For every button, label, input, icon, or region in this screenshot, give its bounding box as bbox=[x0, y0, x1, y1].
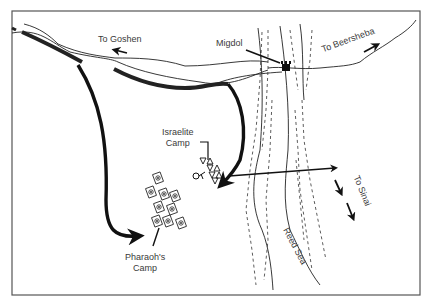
label-israelite-camp: Israelite Camp bbox=[162, 127, 194, 149]
label-migdol: Migdol bbox=[216, 38, 243, 49]
label-to-goshen: To Goshen bbox=[98, 34, 142, 45]
label-israelite-camp-line1: Israelite bbox=[162, 127, 194, 138]
label-israelite-camp-line2: Camp bbox=[162, 138, 194, 149]
label-pharaoh-camp: Pharaoh's Camp bbox=[125, 252, 165, 274]
migdol-tower-icon bbox=[281, 61, 291, 71]
map-frame bbox=[12, 11, 420, 295]
label-pharaoh-camp-line1: Pharaoh's bbox=[125, 252, 165, 263]
exodus-map bbox=[0, 0, 430, 308]
label-pharaoh-camp-line2: Camp bbox=[125, 263, 165, 274]
